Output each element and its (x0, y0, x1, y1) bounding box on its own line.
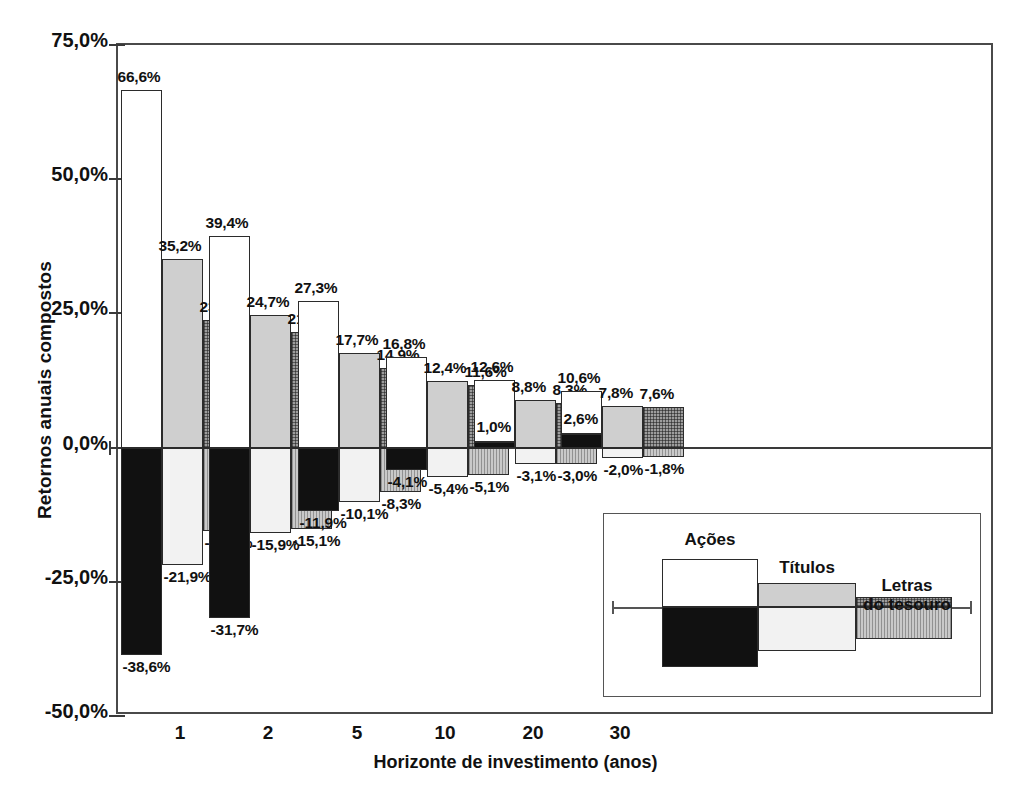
x-axis-tick-label: 1 (145, 722, 215, 744)
bar-segment-min (556, 448, 597, 464)
bar-value-label-min: -2,0% (604, 461, 644, 479)
bar-range (298, 301, 339, 511)
y-axis-tick-label: 0,0% (0, 432, 108, 455)
bar-value-label-min: -3,1% (517, 467, 557, 485)
bar-range (339, 353, 380, 502)
bar-segment-max (602, 406, 643, 448)
x-axis-title: Horizonte de investimento (anos) (0, 752, 1031, 773)
bar-segment-min (468, 448, 509, 475)
bar-segment-max (339, 353, 380, 448)
y-axis-tick-label: 25,0% (0, 297, 108, 320)
legend-label: Letrasdo tesouro (850, 576, 964, 614)
x-axis-tick-label: 5 (322, 722, 392, 744)
bar-value-label-min: -21,9% (164, 568, 212, 586)
bar-segment-max (427, 381, 468, 448)
bar-value-label-max: 17,7% (336, 331, 379, 349)
bar-value-label-min: -8,3% (382, 495, 422, 513)
bar-value-label-min: -5,4% (429, 480, 469, 498)
bar-segment-max (515, 400, 556, 447)
y-axis-tick-label: 50,0% (0, 163, 108, 186)
legend-baseline-cap-left (612, 601, 614, 614)
bar-value-label-max: 8,8% (512, 378, 547, 396)
legend-baseline-cap-right (970, 601, 972, 614)
y-axis-tick (109, 715, 125, 717)
bar-segment-min (386, 448, 427, 470)
bar-segment-min (250, 448, 291, 533)
bar-range (515, 400, 556, 464)
bar-value-label-max: 10,6% (558, 369, 601, 387)
y-axis-tick-label: 75,0% (0, 29, 108, 52)
legend-swatch-min (662, 607, 758, 667)
bar-value-label-min: -11,9% (300, 514, 347, 532)
bar-value-label-max: 16,8% (383, 335, 426, 353)
bar-segment-max (209, 236, 250, 447)
x-axis-tick-label: 10 (410, 722, 480, 744)
bar-range (209, 236, 250, 618)
bar-range (162, 259, 203, 566)
y-axis-tick-label: -50,0% (0, 700, 108, 723)
chart-legend: AçõesTítulosLetrasdo tesouro (603, 513, 981, 697)
bar-segment-max (162, 259, 203, 448)
bar-range (602, 406, 643, 459)
bar-segment-max (386, 357, 427, 447)
bar-value-label-max: 27,3% (295, 279, 338, 297)
bar-value-label-max: 39,4% (206, 214, 249, 232)
bar-segment-min (427, 448, 468, 477)
legend-swatch-max (662, 559, 758, 607)
x-axis-tick-label: 20 (498, 722, 568, 744)
legend-label: Títulos (752, 558, 862, 577)
legend-label: Ações (662, 530, 758, 549)
bar-segment-min (298, 448, 339, 512)
bar-segment-min (474, 442, 515, 447)
bar-value-label-min: -3,0% (558, 467, 598, 485)
legend-swatch-min (758, 607, 856, 651)
legend-swatch-max (758, 583, 856, 607)
bar-segment-max (643, 407, 684, 448)
bar-segment-max (298, 301, 339, 448)
bar-range (386, 357, 427, 469)
y-axis-tick (109, 44, 125, 46)
x-axis-tick (109, 441, 111, 455)
bar-segment-min (643, 448, 684, 458)
bar-segment-max (250, 315, 291, 448)
bar-value-label-min: -5,1% (470, 478, 510, 496)
bar-value-label-min: 1,0% (477, 418, 512, 436)
bar-range (250, 315, 291, 533)
bar-value-label-max: 7,8% (599, 384, 634, 402)
bar-value-label-min: -4,1% (388, 473, 428, 491)
bar-value-label-max: 7,6% (640, 385, 675, 403)
bar-range (121, 90, 162, 655)
bar-segment-min (209, 448, 250, 618)
bar-value-label-min: -31,7% (211, 621, 259, 639)
bar-value-label-min: -15,1% (293, 532, 341, 550)
bar-value-label-max: 12,6% (471, 358, 514, 376)
bar-range (474, 380, 515, 448)
bar-range (643, 407, 684, 457)
bar-segment-min (162, 448, 203, 566)
x-axis-tick-label: 2 (233, 722, 303, 744)
bar-value-label-max: 24,7% (247, 293, 290, 311)
bar-value-label-max: 35,2% (159, 237, 202, 255)
bar-value-label-max: 12,4% (424, 359, 467, 377)
bar-value-label-min: -1,8% (645, 460, 685, 478)
y-axis-tick-label: -25,0% (0, 566, 108, 589)
bar-segment-min (602, 448, 643, 459)
x-axis-tick-label: 30 (585, 722, 655, 744)
plot-area: 66,6%-38,6%35,2%-21,9%23,7%-15,6%39,4%-3… (116, 43, 993, 714)
bar-segment-min (121, 448, 162, 655)
bar-value-label-min: -38,6% (123, 658, 171, 676)
bar-range (427, 381, 468, 477)
chart-page: Retornos anuais compostos 75,0%50,0%25,0… (0, 0, 1031, 799)
bar-value-label-min: 2,6% (564, 410, 599, 428)
bar-segment-min (339, 448, 380, 502)
bar-segment-min (515, 448, 556, 465)
bar-segment-min (561, 434, 602, 448)
bar-segment-max (121, 90, 162, 448)
bar-value-label-max: 66,6% (118, 68, 161, 86)
